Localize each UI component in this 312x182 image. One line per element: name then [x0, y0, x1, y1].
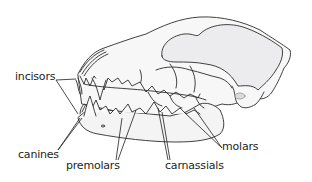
auditory-bulla	[235, 93, 245, 99]
label-molars: molars	[222, 141, 258, 153]
label-canines: canines	[18, 149, 59, 161]
leader-canines	[58, 118, 82, 150]
label-incisors: incisors	[15, 71, 55, 83]
mental-foramen	[101, 125, 104, 127]
label-premolars: premolars	[66, 160, 120, 172]
leader-incisors	[56, 79, 78, 114]
label-carnassials: carnassials	[165, 160, 224, 172]
skull-illustration	[76, 17, 291, 142]
